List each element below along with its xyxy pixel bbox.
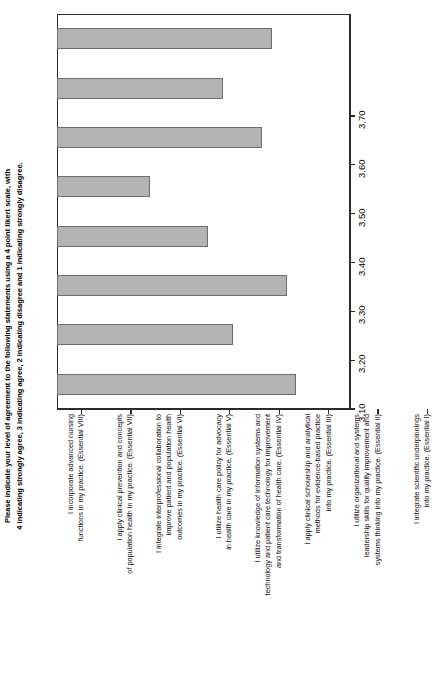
bar <box>57 324 233 345</box>
category-label: I utilize organizational and systems lea… <box>352 414 385 686</box>
bar <box>57 275 287 296</box>
category-axis <box>57 409 350 413</box>
value-axis-tick <box>350 262 355 263</box>
category-label: I integrate interprofessional collaborat… <box>154 414 187 686</box>
category-label: I incorporate advanced nursing functions… <box>66 414 89 686</box>
category-label: I apply clinical prevention and concepts… <box>115 414 138 686</box>
value-axis-tick <box>350 311 355 312</box>
value-axis-line <box>350 14 351 409</box>
category-axis-line <box>57 409 350 410</box>
value-axis-tick <box>350 164 355 165</box>
bar <box>57 226 208 247</box>
bar <box>57 176 150 197</box>
value-axis-tick-label: 3.50 <box>356 201 370 227</box>
value-axis-tick <box>350 213 355 214</box>
bars-layer <box>57 14 350 409</box>
value-axis-tick <box>350 115 355 116</box>
value-axis-tick-label: 3.20 <box>356 347 370 373</box>
value-axis-tick <box>350 360 355 361</box>
category-label: I apply clinical scholarship and analyti… <box>303 414 336 686</box>
category-label: I utilize knowledge of information syste… <box>253 414 286 686</box>
value-axis-tick-label: 3.60 <box>356 152 370 178</box>
value-axis: 3.103.203.303.403.503.603.70 <box>350 14 382 409</box>
bar <box>57 28 272 49</box>
value-axis-tick-label: 3.30 <box>356 298 370 324</box>
value-axis-tick <box>350 408 355 409</box>
category-label: I integrate scientific underpinnings int… <box>412 414 435 686</box>
bar <box>57 374 296 395</box>
chart-title: Please indicate your level of agreement … <box>2 0 28 692</box>
category-label: I utilize health care policy for advocac… <box>214 414 237 686</box>
bar <box>57 78 223 99</box>
value-axis-tick-label: 3.40 <box>356 250 370 276</box>
bar <box>57 127 262 148</box>
value-axis-tick-label: 3.70 <box>356 103 370 129</box>
